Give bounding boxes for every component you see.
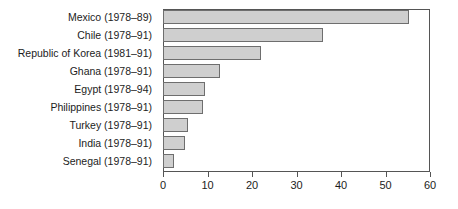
bar xyxy=(163,46,261,60)
x-tick-label: 30 xyxy=(290,179,302,191)
bar xyxy=(163,64,220,78)
bar xyxy=(163,118,188,132)
x-tick-label: 60 xyxy=(424,179,436,191)
x-axis: 0 10 20 30 40 50 60 xyxy=(163,172,430,202)
x-tick xyxy=(430,172,431,177)
bar xyxy=(163,100,203,114)
bars-layer xyxy=(163,9,430,172)
bar-chart: Mexico (1978–89) Chile (1978–91) Republi… xyxy=(0,0,458,209)
bar xyxy=(163,154,174,168)
category-label: Egypt (1978–94) xyxy=(74,80,152,98)
category-label: Philippines (1978–91) xyxy=(50,98,152,116)
category-label: Republic of Korea (1981–91) xyxy=(18,44,152,62)
bar xyxy=(163,136,185,150)
bar xyxy=(163,10,409,24)
bar xyxy=(163,28,323,42)
category-label: Senegal (1978–91) xyxy=(63,152,152,170)
category-axis-labels: Mexico (1978–89) Chile (1978–91) Republi… xyxy=(0,9,158,172)
bar xyxy=(163,82,205,96)
x-tick xyxy=(163,172,164,177)
category-label: India (1978–91) xyxy=(78,134,152,152)
x-tick-label: 40 xyxy=(335,179,347,191)
x-tick xyxy=(208,172,209,177)
category-label: Chile (1978–91) xyxy=(77,26,152,44)
category-label: Turkey (1978–91) xyxy=(70,116,153,134)
x-tick xyxy=(386,172,387,177)
x-tick xyxy=(252,172,253,177)
x-tick-label: 20 xyxy=(246,179,258,191)
x-tick xyxy=(341,172,342,177)
x-tick xyxy=(297,172,298,177)
x-tick-label: 10 xyxy=(201,179,213,191)
category-label: Mexico (1978–89) xyxy=(68,8,152,26)
x-tick-label: 50 xyxy=(379,179,391,191)
category-label: Ghana (1978–91) xyxy=(70,62,152,80)
x-tick-label: 0 xyxy=(160,179,166,191)
